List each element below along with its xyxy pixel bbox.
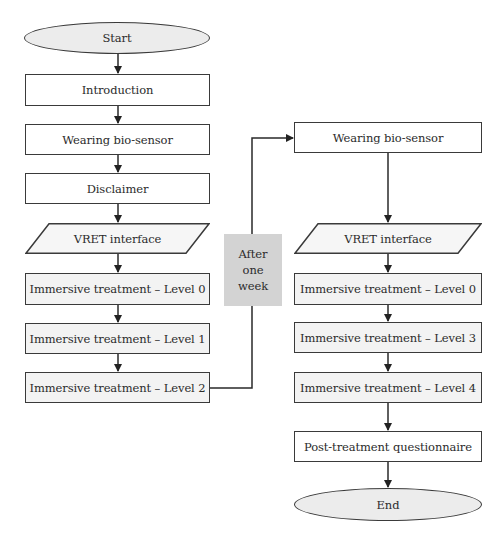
step-treatment-level-0-2: Immersive treatment – Level 0 <box>294 273 482 305</box>
step-label: Immersive treatment – Level 4 <box>300 381 476 395</box>
step-treatment-level-4: Immersive treatment – Level 4 <box>294 372 482 403</box>
start-label: Start <box>103 31 132 45</box>
after-one-week-note: After one week <box>224 234 282 306</box>
step-label: Immersive treatment – Level 2 <box>30 381 206 395</box>
start-terminal: Start <box>24 22 210 54</box>
step-introduction: Introduction <box>25 74 210 106</box>
step-vret-interface-2: VRET interface <box>294 223 482 254</box>
step-label: Immersive treatment – Level 3 <box>300 331 476 345</box>
step-label: Wearing bio-sensor <box>62 133 173 147</box>
end-terminal: End <box>294 488 482 521</box>
step-label: Immersive treatment – Level 1 <box>30 332 206 346</box>
step-label: Introduction <box>82 83 154 97</box>
step-label: Immersive treatment – Level 0 <box>30 282 206 296</box>
flowchart: Start Introduction Wearing bio-sensor Di… <box>0 0 504 538</box>
step-label: Immersive treatment – Level 0 <box>300 282 476 296</box>
step-treatment-level-2: Immersive treatment – Level 2 <box>25 372 210 403</box>
step-label: VRET interface <box>344 232 432 246</box>
step-wearing-bio-sensor: Wearing bio-sensor <box>25 124 210 155</box>
note-line: one <box>243 262 264 278</box>
note-line: week <box>238 278 268 294</box>
step-label: Wearing bio-sensor <box>333 131 444 145</box>
step-treatment-level-1: Immersive treatment – Level 1 <box>25 323 210 354</box>
step-disclaimer: Disclaimer <box>25 173 210 204</box>
step-label: VRET interface <box>74 232 162 246</box>
step-label: Disclaimer <box>87 182 149 196</box>
step-post-treatment-questionnaire: Post-treatment questionnaire <box>294 431 482 462</box>
step-vret-interface: VRET interface <box>25 223 210 254</box>
step-wearing-bio-sensor-2: Wearing bio-sensor <box>294 122 482 153</box>
step-treatment-level-3: Immersive treatment – Level 3 <box>294 322 482 353</box>
step-treatment-level-0: Immersive treatment – Level 0 <box>25 273 210 305</box>
end-label: End <box>377 498 400 512</box>
step-label: Post-treatment questionnaire <box>304 440 472 454</box>
note-line: After <box>239 246 268 262</box>
